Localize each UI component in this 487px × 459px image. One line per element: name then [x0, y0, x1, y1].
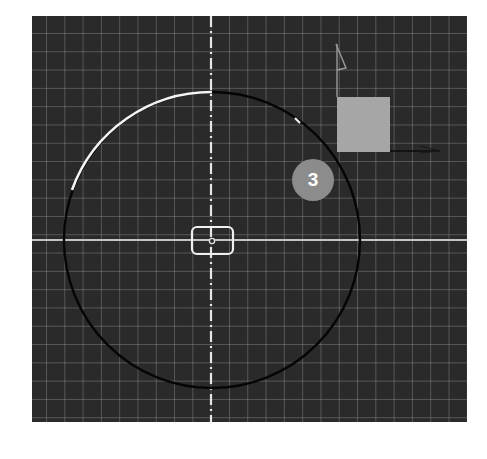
step-number-badge: 3	[292, 159, 334, 201]
page: 3	[0, 0, 487, 459]
ucs-square-icon	[337, 97, 390, 152]
drawing-layer	[32, 16, 467, 422]
ucs-x-arrow-icon	[390, 146, 440, 153]
center-point-icon	[209, 238, 214, 243]
ucs-y-arrow-icon	[336, 44, 346, 97]
selected-arc-segment[interactable]	[72, 92, 212, 190]
drawing-canvas[interactable]: 3	[32, 16, 467, 422]
badge-label: 3	[308, 169, 319, 191]
